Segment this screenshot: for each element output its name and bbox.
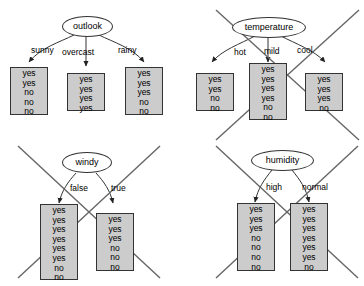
node-humidity-label: humidity	[266, 156, 300, 165]
leaf-box-outlook-sunny: yes yes no no no	[10, 67, 48, 115]
node-temperature-label: temperature	[245, 23, 294, 32]
edge-label-windy-false: false	[70, 184, 88, 193]
edge-label-outlook-overcast: overcast	[62, 48, 94, 57]
edge-label-outlook-sunny: sunny	[31, 46, 54, 55]
leaf-box-windy-false: yes yes yes yes yes yes no no	[40, 204, 78, 280]
leaf-box-outlook-rainy: yes yes yes no no	[125, 67, 163, 115]
node-outlook-label: outlook	[73, 22, 102, 31]
node-windy[interactable]: windy	[62, 152, 112, 173]
leaf-item: no	[139, 107, 148, 117]
leaf-item: no	[110, 263, 119, 273]
leaf-item: no	[54, 273, 63, 283]
node-windy-label: windy	[75, 158, 98, 167]
decision-tree-figure: outlook sunny overcast rainy yes yes no …	[0, 0, 364, 286]
leaf-box-humidity-normal: yes yes yes yes yes yes no	[290, 203, 328, 271]
leaf-item: no	[24, 107, 33, 117]
leaf-item: no	[263, 113, 272, 123]
leaf-box-temperature-mild: yes yes yes yes no no	[249, 63, 287, 120]
leaf-box-outlook-overcast: yes yes yes yes	[67, 73, 105, 111]
edge-label-temperature-cool: cool	[297, 46, 313, 55]
edge-label-temperature-mild: mild	[264, 47, 280, 56]
node-outlook[interactable]: outlook	[62, 16, 113, 37]
leaf-item: no	[210, 104, 219, 114]
node-temperature[interactable]: temperature	[232, 17, 306, 38]
leaf-item: yes	[79, 104, 92, 114]
leaf-box-humidity-high: yes yes yes no no no no	[237, 203, 275, 271]
edge-label-outlook-rainy: rainy	[118, 46, 136, 55]
edge-label-humidity-normal: normal	[302, 183, 328, 192]
edge-label-windy-true: true	[111, 184, 126, 193]
leaf-box-temperature-hot: yes yes no no	[196, 73, 234, 111]
leaf-box-temperature-cool: yes yes yes no	[305, 73, 343, 111]
edge-label-temperature-hot: hot	[234, 48, 246, 57]
leaf-item: no	[251, 263, 260, 273]
edge-label-humidity-high: high	[266, 183, 282, 192]
leaf-box-windy-true: yes yes yes no no no	[96, 213, 134, 271]
leaf-item: no	[319, 104, 328, 114]
node-humidity[interactable]: humidity	[251, 150, 314, 171]
leaf-item: no	[304, 263, 313, 273]
